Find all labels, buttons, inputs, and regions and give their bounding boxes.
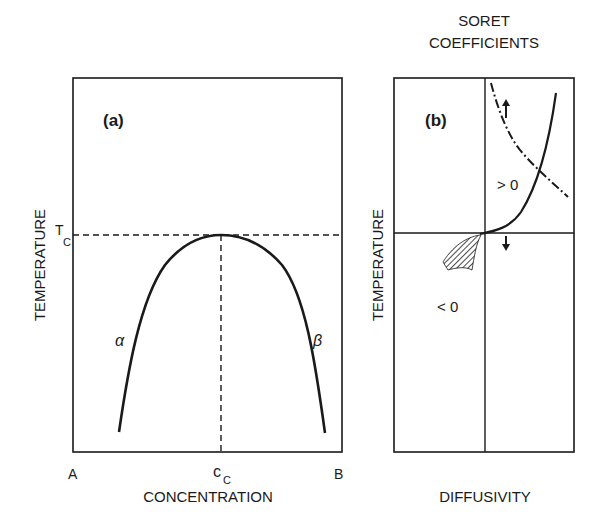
up-arrow-icon (502, 99, 510, 118)
panel-a-label: (a) (103, 111, 124, 130)
panel-a-frame (73, 78, 342, 452)
component-a-label: A (68, 466, 78, 482)
panel-a-xlabel: CONCENTRATION (143, 488, 273, 505)
beta-phase-label: β (312, 332, 322, 349)
positive-label: > 0 (497, 176, 518, 193)
cc-label: c (213, 463, 221, 480)
soret-title-line1: SORET (458, 12, 510, 29)
negative-label: < 0 (437, 298, 458, 315)
figure: (a) T C α β A B c C CONCENTRATION TEMPER… (0, 0, 595, 530)
panel-a-ylabel: TEMPERATURE (31, 209, 48, 321)
diffusivity-curve (480, 93, 556, 234)
tc-label-sub: C (63, 236, 71, 248)
cc-label-sub: C (223, 474, 231, 486)
panel-b-ylabel: TEMPERATURE (369, 209, 386, 321)
alpha-phase-label: α (115, 332, 125, 349)
miscibility-gap-curve (119, 235, 325, 433)
panel-a: (a) T C α β A B c C CONCENTRATION TEMPER… (31, 78, 343, 505)
soret-title-line2: COEFFICIENTS (429, 34, 539, 51)
hatched-negative-region (443, 235, 481, 270)
down-arrow-icon (502, 236, 510, 251)
panel-b-xlabel: DIFFUSIVITY (439, 488, 531, 505)
component-b-label: B (334, 466, 343, 482)
panel-b-frame (394, 78, 574, 452)
panel-b-label: (b) (425, 111, 447, 130)
panel-b: SORET COEFFICIENTS (b) > 0 < 0 DIFFUSIVI… (369, 12, 574, 505)
